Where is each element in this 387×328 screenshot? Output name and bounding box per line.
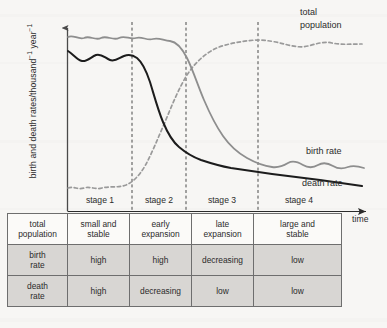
y-axis-label: birth and death rates/thousand−1 year−1: [28, 16, 38, 186]
cell-birth-rate-stage-3: decreasing: [192, 245, 254, 276]
x-axis-label-time: time: [352, 214, 369, 224]
cell-line2: stable: [286, 229, 308, 239]
death-rate-label: death rate: [302, 178, 343, 188]
cell-death-rate-stage-4: low: [254, 276, 342, 307]
row-header-total-population: total population: [8, 214, 68, 245]
cell-total-population-stage-4: large and stable: [254, 214, 342, 245]
cell-death-rate-stage-2: decreasing: [130, 276, 192, 307]
cell-line2: stable: [87, 229, 109, 239]
total-population-label-line2: population: [300, 19, 342, 32]
stage-label-2: stage 2: [133, 195, 185, 205]
table-row: death rate high decreasing low low: [8, 276, 342, 307]
cell-line1: late: [216, 219, 230, 229]
cell-line2: expansion: [203, 229, 241, 239]
cell-death-rate-stage-1: high: [68, 276, 130, 307]
row-header-line2: rate: [30, 291, 44, 301]
row-header-death-rate: death rate: [8, 276, 68, 307]
stage-label-1: stage 1: [69, 195, 131, 205]
cell-total-population-stage-2: early expansion: [130, 214, 192, 245]
row-header-line1: death: [27, 281, 48, 291]
cell-line1: small and: [81, 219, 117, 229]
birth-rate-label: birth rate: [306, 146, 342, 156]
total-population-label: total population: [300, 6, 342, 31]
cell-line1: early: [151, 219, 169, 229]
row-header-birth-rate: birth rate: [8, 245, 68, 276]
row-header-line2: rate: [30, 260, 44, 270]
cell-total-population-stage-1: small and stable: [68, 214, 130, 245]
total-population-label-line1: total: [300, 6, 342, 19]
table-row: total population small and stable early …: [8, 214, 342, 245]
stage-summary-table: total population small and stable early …: [7, 213, 342, 307]
demographic-transition-figure: birth and death rates/thousand−1 year−1 …: [0, 0, 387, 328]
row-header-line2: population: [18, 229, 57, 239]
cell-birth-rate-stage-1: high: [68, 245, 130, 276]
table-row: birth rate high high decreasing low: [8, 245, 342, 276]
stage-label-4: stage 4: [259, 195, 339, 205]
cell-line2: expansion: [141, 229, 179, 239]
cell-total-population-stage-3: late expansion: [192, 214, 254, 245]
cell-death-rate-stage-3: low: [192, 276, 254, 307]
cell-line1: large and: [280, 219, 315, 229]
stage-label-3: stage 3: [187, 195, 257, 205]
row-header-line1: total: [30, 219, 46, 229]
total-population-curve: [68, 40, 362, 189]
cell-birth-rate-stage-2: high: [130, 245, 192, 276]
cell-birth-rate-stage-4: low: [254, 245, 342, 276]
row-header-line1: birth: [29, 250, 45, 260]
